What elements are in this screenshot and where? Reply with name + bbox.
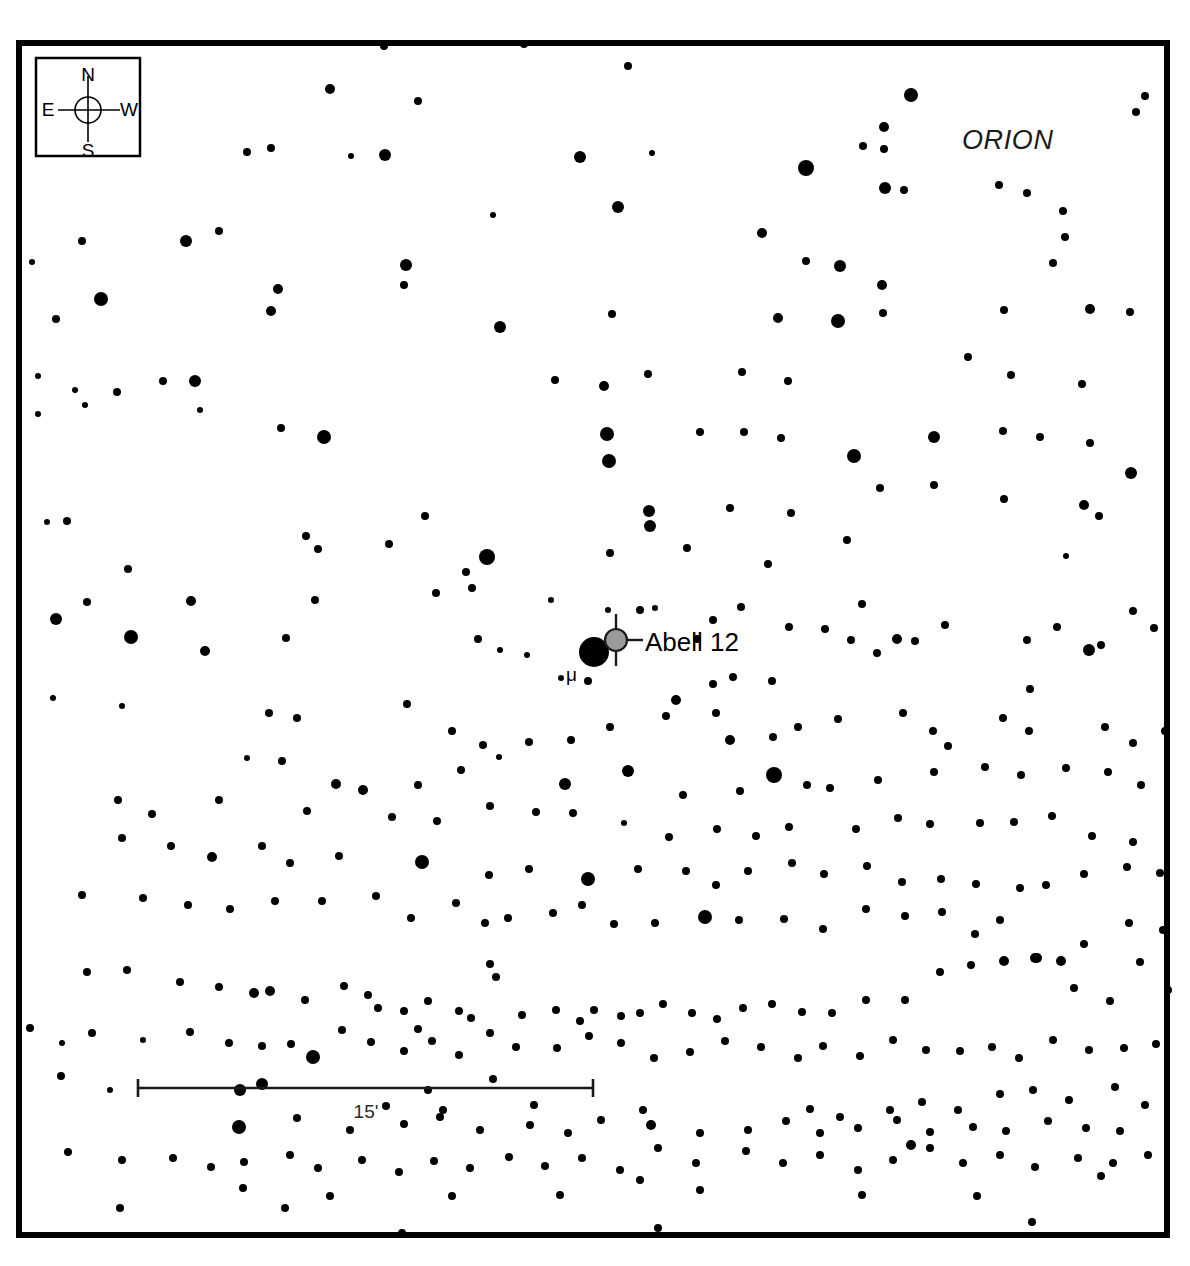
star-symbol: [400, 1120, 408, 1128]
star-symbol: [215, 227, 223, 235]
star-symbol: [929, 727, 937, 735]
star-symbol: [118, 834, 126, 842]
star-symbol: [1111, 1083, 1119, 1091]
star-symbol: [1078, 380, 1086, 388]
star-symbol: [930, 481, 938, 489]
star-symbol: [996, 1151, 1004, 1159]
star-symbol: [1070, 984, 1078, 992]
star-symbol: [44, 519, 50, 525]
star-symbol: [1056, 956, 1066, 966]
star-symbol: [556, 1191, 564, 1199]
star-symbol: [696, 428, 704, 436]
star-symbol: [317, 430, 331, 444]
star-symbol: [215, 983, 223, 991]
star-symbol: [904, 88, 918, 102]
star-symbol: [744, 1126, 752, 1134]
star-symbol: [72, 387, 78, 393]
star-symbol: [1126, 308, 1134, 316]
star-symbol: [492, 973, 500, 981]
star-symbol: [713, 825, 721, 833]
star-symbol: [82, 402, 88, 408]
star-symbol: [314, 1164, 322, 1172]
star-symbol: [938, 908, 946, 916]
star-symbol: [819, 925, 827, 933]
star-symbol: [244, 755, 250, 761]
star-symbol: [374, 1004, 382, 1012]
star-symbol: [407, 914, 415, 922]
star-symbol: [744, 867, 752, 875]
star-symbol: [432, 589, 440, 597]
star-symbol: [1144, 1151, 1152, 1159]
star-symbol: [1129, 838, 1137, 846]
star-symbol: [314, 545, 322, 553]
star-symbol: [889, 1156, 897, 1164]
star-symbol: [481, 919, 489, 927]
star-symbol: [486, 960, 494, 968]
star-symbol: [448, 1192, 456, 1200]
star-symbol: [779, 1159, 787, 1167]
star-symbol: [712, 709, 720, 717]
star-symbol: [474, 635, 482, 643]
star-symbol: [696, 1186, 704, 1194]
star-symbol: [874, 776, 882, 784]
star-symbol: [605, 607, 611, 613]
star-symbol: [1109, 1159, 1117, 1167]
star-symbol: [729, 673, 737, 681]
star-symbol: [189, 375, 201, 387]
star-symbol: [1159, 926, 1167, 934]
star-symbol: [1062, 764, 1070, 772]
star-symbol: [918, 1098, 926, 1106]
star-symbol: [612, 201, 624, 213]
star-symbol: [847, 636, 855, 644]
star-symbol: [679, 791, 687, 799]
star-symbol: [380, 42, 388, 50]
star-symbol: [234, 1084, 246, 1096]
star-symbol: [936, 968, 944, 976]
star-symbol: [639, 1106, 647, 1114]
planetary-nebula-icon[interactable]: [605, 629, 627, 651]
star-symbol: [489, 1075, 497, 1083]
star-symbol: [654, 1224, 662, 1232]
star-symbol: [937, 875, 945, 883]
star-symbol: [26, 1024, 34, 1032]
star-symbol: [1137, 781, 1145, 789]
star-symbol: [1164, 986, 1172, 994]
star-symbol: [226, 905, 234, 913]
star-symbol: [709, 616, 717, 624]
star-symbol: [643, 505, 655, 517]
star-symbol: [1029, 1086, 1037, 1094]
star-symbol: [847, 449, 861, 463]
star-symbol: [578, 1154, 586, 1162]
star-symbol: [856, 1052, 864, 1060]
star-symbol: [140, 1037, 146, 1043]
star-symbol: [662, 712, 670, 720]
star-symbol: [713, 1015, 721, 1023]
star-symbol: [278, 757, 286, 765]
star-symbol: [879, 182, 891, 194]
star-symbol: [414, 97, 422, 105]
star-symbol: [780, 915, 788, 923]
star-symbol: [819, 1042, 827, 1050]
star-symbol: [1015, 1054, 1023, 1062]
compass-south-label: S: [82, 140, 95, 161]
star-symbol: [293, 714, 301, 722]
star-symbol: [1074, 1154, 1082, 1162]
star-symbol: [650, 1054, 658, 1062]
star-symbol: [282, 634, 290, 642]
star-symbol: [83, 968, 91, 976]
star-symbol: [644, 370, 652, 378]
star-symbol: [696, 1129, 704, 1137]
star-symbol: [414, 1025, 422, 1033]
star-symbol: [787, 509, 795, 517]
star-symbol: [646, 1120, 656, 1130]
star-symbol: [709, 680, 717, 688]
star-symbol: [859, 142, 867, 150]
star-symbol: [1044, 1117, 1052, 1125]
star-symbol: [88, 1029, 96, 1037]
star-symbol: [180, 235, 192, 247]
star-symbol: [894, 814, 902, 822]
star-symbol: [382, 1102, 390, 1110]
star-symbol: [739, 1004, 747, 1012]
star-symbol: [899, 709, 907, 717]
star-symbol: [258, 1042, 266, 1050]
